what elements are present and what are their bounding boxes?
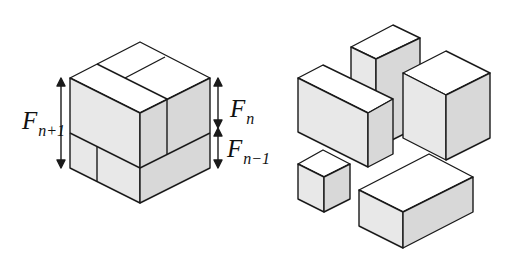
label-f-n-minus-1: Fn−1 (227, 136, 270, 161)
assembled-cube (70, 42, 210, 203)
small-cube (298, 150, 350, 212)
label-f-n: Fn (230, 96, 254, 121)
large-cube (403, 51, 490, 160)
flat-box (359, 154, 473, 248)
fibonacci-cube-diagram (0, 0, 514, 260)
label-f-n-plus-1: Fn+1 (22, 108, 65, 133)
